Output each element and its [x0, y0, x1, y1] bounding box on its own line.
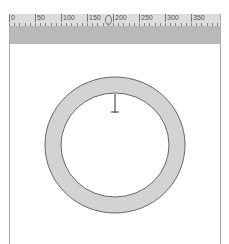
drawing-canvas[interactable] [0, 0, 229, 244]
crosshair-cursor-icon [111, 94, 119, 113]
